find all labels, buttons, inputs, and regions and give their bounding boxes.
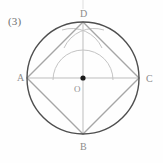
geometry-figure-panel: (3) D A C B O	[0, 0, 163, 163]
geometry-figure-svg	[0, 0, 163, 163]
construction-arc-left	[64, 28, 104, 48]
vertex-label-b: B	[80, 142, 87, 152]
vertex-label-c: C	[146, 74, 153, 84]
item-number-label: (3)	[8, 16, 21, 27]
vertex-label-a: A	[17, 73, 24, 83]
construction-arc-right	[62, 28, 102, 48]
center-label-o: O	[74, 85, 81, 94]
center-point-dot	[80, 75, 85, 80]
vertex-label-d: D	[80, 9, 87, 19]
